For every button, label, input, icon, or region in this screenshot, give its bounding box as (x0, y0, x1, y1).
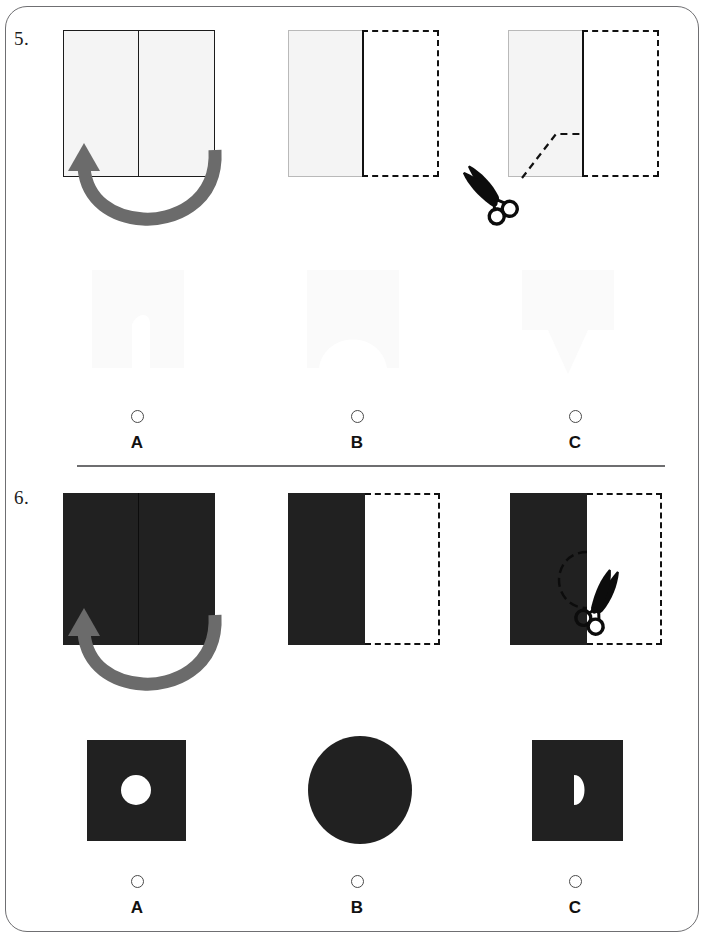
q6-step1-fold-arrow-icon (55, 600, 235, 690)
q6-option-c-label: C (560, 898, 590, 918)
q5-option-a-radio[interactable] (131, 410, 144, 423)
q6-step3-scissors-icon (572, 570, 652, 655)
q5-step2-ghost-half (362, 30, 439, 177)
q5-option-c-shape (518, 268, 628, 378)
q5-option-b-radio[interactable] (351, 410, 364, 423)
worksheet-page: 5. (0, 0, 708, 943)
q6-option-a-shape (85, 738, 193, 843)
q6-option-b-label: B (342, 898, 372, 918)
q6-option-a-label: A (122, 898, 152, 918)
question-number-6: 6. (14, 487, 29, 509)
q6-option-b-radio[interactable] (351, 875, 364, 888)
q5-option-a-label: A (122, 433, 152, 453)
question-divider (77, 465, 665, 467)
q6-step2-ghost-half (365, 493, 440, 645)
q6-step3-cut-sheet (0, 0, 300, 240)
q5-option-b-label: B (342, 433, 372, 453)
q5-option-b-shape (303, 268, 413, 373)
q5-option-a-shape (88, 268, 198, 373)
q6-step2-paper-half (288, 493, 365, 645)
q5-option-c-label: C (560, 433, 590, 453)
q5-step3-scissors-icon (455, 160, 525, 230)
q5-option-c-radio[interactable] (569, 410, 582, 423)
q6-option-a-radio[interactable] (131, 875, 144, 888)
q6-option-b-shape (304, 730, 416, 850)
q6-option-c-shape (530, 738, 630, 843)
q6-option-c-radio[interactable] (569, 875, 582, 888)
